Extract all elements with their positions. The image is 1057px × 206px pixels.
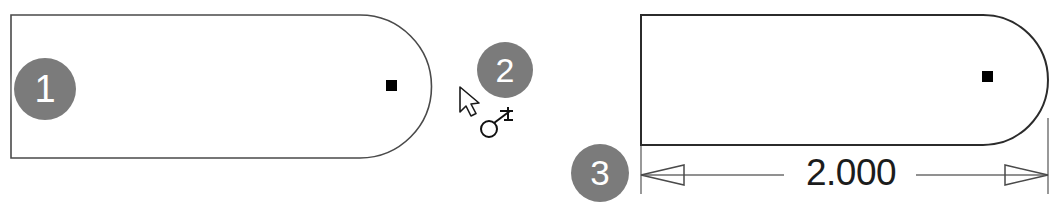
right-sketch-point[interactable] — [982, 71, 993, 82]
callout-badge-3-label: 3 — [590, 153, 609, 193]
callout-badge-2[interactable]: 2 — [477, 42, 533, 98]
callout-badge-2-label: 2 — [496, 51, 515, 90]
callout-badge-1[interactable]: 1 — [14, 58, 76, 120]
callout-badge-1-label: 1 — [34, 68, 55, 111]
drawing-canvas: 1 2 3 2.000 — [0, 0, 1057, 206]
arrow-cursor-icon — [460, 87, 479, 116]
smart-dimension-icon — [481, 107, 513, 137]
right-slot-profile[interactable] — [641, 15, 1048, 145]
left-sketch-point[interactable] — [386, 80, 397, 91]
callout-badge-3[interactable]: 3 — [571, 144, 629, 202]
dimension-value-text[interactable]: 2.000 — [782, 152, 920, 194]
